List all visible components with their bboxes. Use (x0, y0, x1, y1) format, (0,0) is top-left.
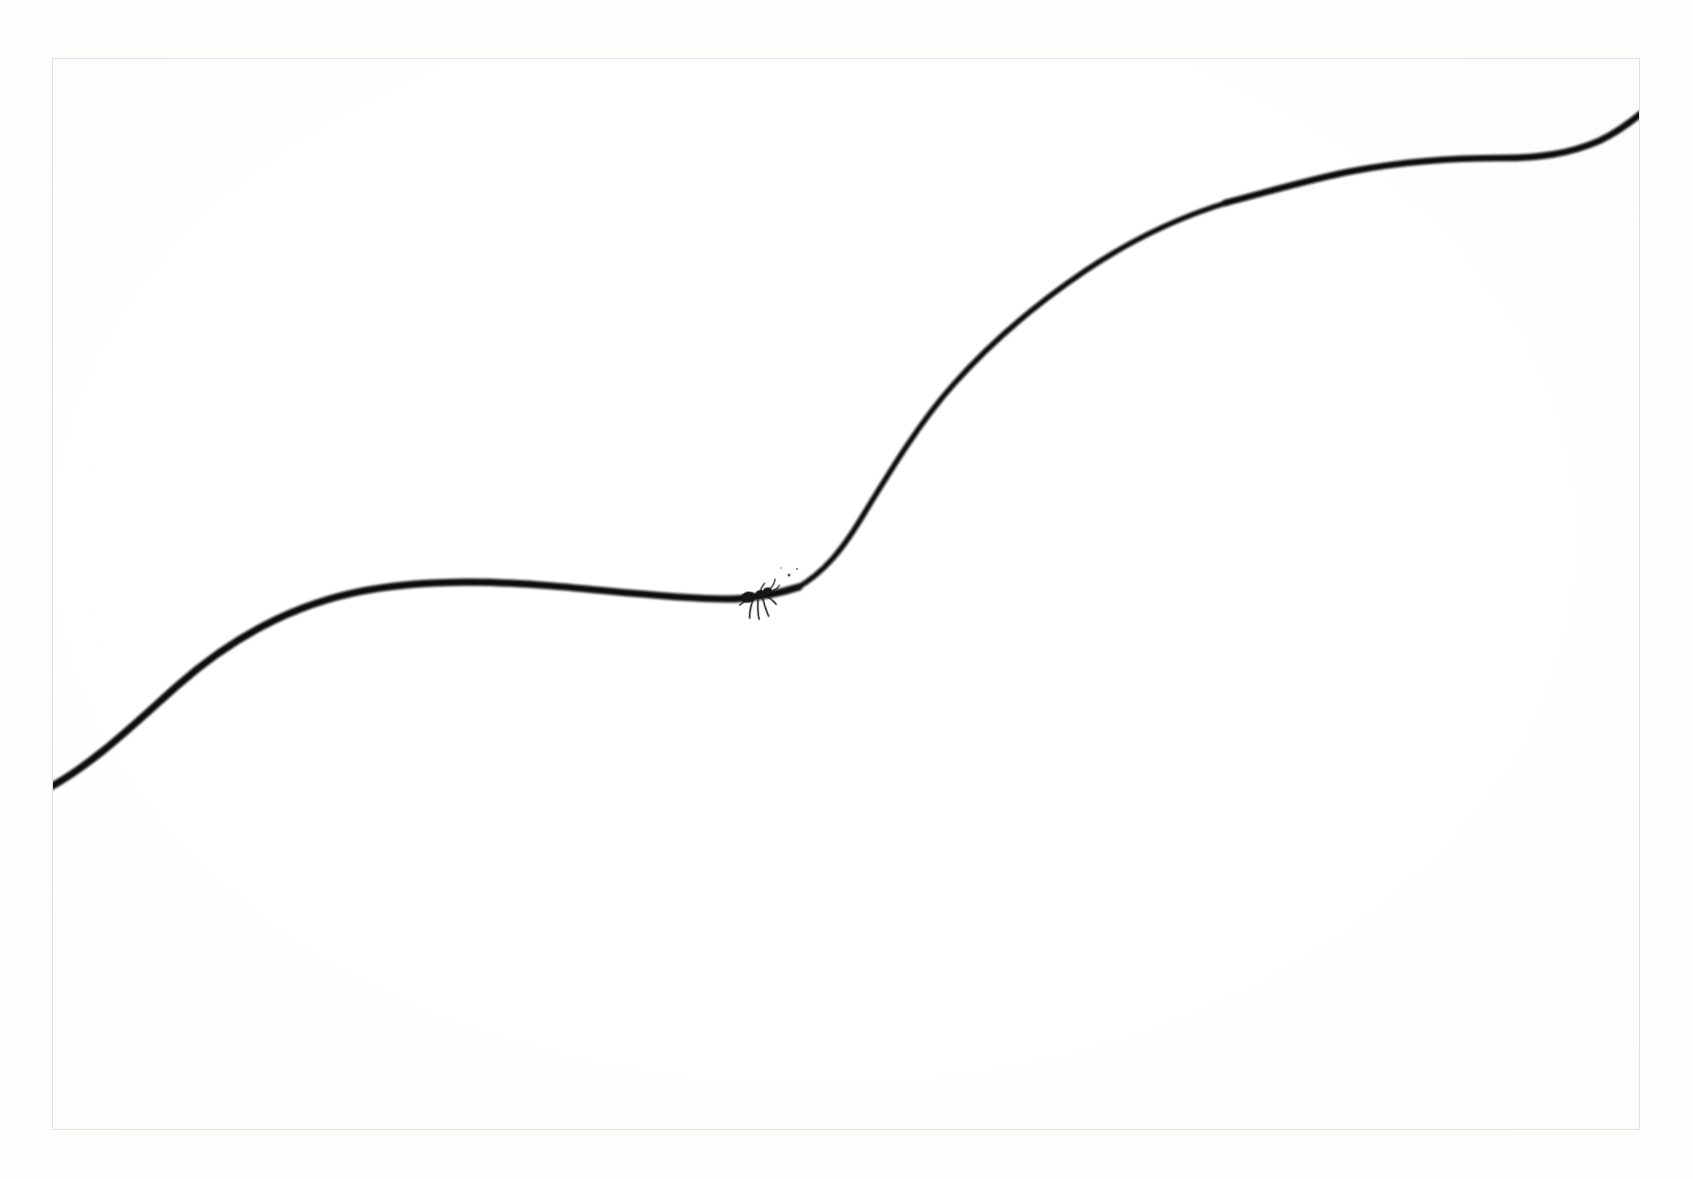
curve-segment-lower-plateau (53, 582, 799, 789)
photograph-scene: Hand-drawn sigmoid curve with ant hand-d… (0, 0, 1693, 1179)
ink-speckles (780, 567, 806, 583)
ant-icon (736, 578, 786, 622)
ant-legs (736, 582, 778, 623)
white-paper-sheet (52, 58, 1640, 1130)
curve-segment-steep-climb (797, 202, 1229, 588)
hand-drawn-curve-svg (53, 59, 1640, 1130)
curve-segment-upper-plateau (1225, 107, 1640, 203)
